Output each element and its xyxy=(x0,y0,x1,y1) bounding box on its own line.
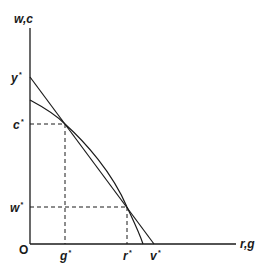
y-star-label: y* xyxy=(11,71,21,84)
straight-line xyxy=(30,77,154,244)
y-star-mark: * xyxy=(19,71,22,78)
concave-frontier-curve xyxy=(30,100,143,244)
w-star-mark: * xyxy=(20,201,23,208)
c-star-letter: c xyxy=(13,118,20,132)
origin-label: O xyxy=(19,244,28,256)
v-star-letter: v xyxy=(150,249,157,263)
r-star-letter: r xyxy=(123,249,128,263)
r-star-mark: * xyxy=(129,249,132,256)
y-axis-label: w,c xyxy=(14,13,33,25)
g-star-letter: g xyxy=(60,249,67,263)
frontier-diagram xyxy=(0,0,267,271)
v-star-mark: * xyxy=(158,249,161,256)
g-star-label: g* xyxy=(60,249,71,262)
c-star-label: c* xyxy=(13,118,23,131)
r-star-label: r* xyxy=(123,249,131,262)
w-star-label: w* xyxy=(10,201,23,214)
g-star-mark: * xyxy=(68,249,71,256)
v-star-label: v* xyxy=(150,249,160,262)
c-star-mark: * xyxy=(21,118,24,125)
x-axis-label: r,g xyxy=(240,238,255,250)
y-star-letter: y xyxy=(11,71,18,85)
w-star-letter: w xyxy=(10,201,19,215)
